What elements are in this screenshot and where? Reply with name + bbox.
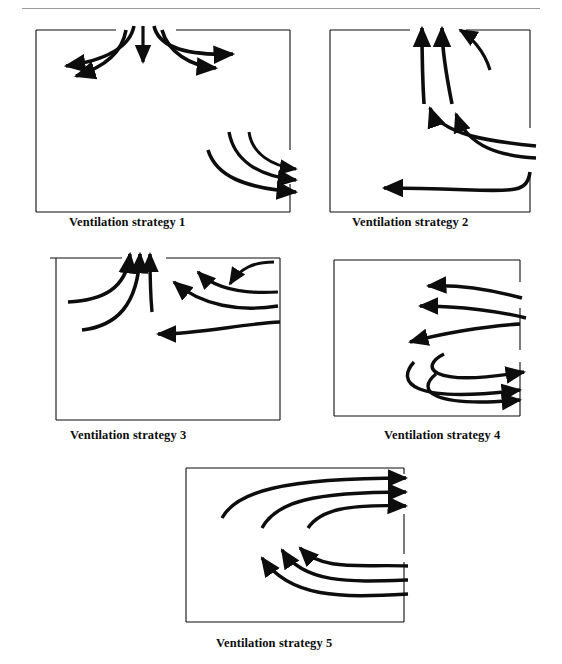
arrow-rise-mid — [442, 28, 452, 104]
arrow-right-inner — [162, 30, 216, 68]
arrow-left-mid — [420, 306, 526, 318]
header-rule — [22, 8, 540, 9]
panel-strategy-3 — [50, 250, 292, 428]
caption-strategy-2: Ventilation strategy 2 — [352, 215, 468, 230]
panel-strategy-1 — [30, 24, 302, 220]
arrow-in-mid — [174, 282, 278, 308]
caption-strategy-1: Ventilation strategy 1 — [69, 215, 185, 230]
airflow-diagram-2 — [324, 24, 542, 220]
arrow-left-top — [428, 286, 522, 298]
tail-dummy-2 — [492, 69, 501, 71]
arrow-left-inner — [76, 30, 126, 76]
airflow-diagram-5 — [180, 462, 420, 634]
caption-strategy-3: Ventilation strategy 3 — [70, 428, 186, 443]
running-head — [0, 0, 562, 4]
room-outline-3 — [50, 258, 280, 420]
arrow-out-low — [308, 506, 406, 528]
arrow-in-low-left — [158, 322, 280, 334]
panel-strategy-5 — [180, 462, 420, 634]
airflow-diagram-3 — [50, 250, 292, 428]
arrow-rise-left — [422, 28, 424, 104]
panel-strategy-4 — [324, 250, 544, 432]
airflow-diagram-1 — [30, 24, 302, 220]
room-outline-2 — [330, 30, 530, 212]
arrow-in-up-right — [300, 548, 408, 566]
panel-strategy-2 — [324, 24, 542, 220]
figure-page: Ventilation strategy 1 — [0, 0, 562, 664]
arrow-in-top — [230, 262, 274, 284]
caption-strategy-5: Ventilation strategy 5 — [216, 636, 332, 651]
arrow-rise-right — [460, 30, 490, 70]
arrow-supply-upper — [430, 108, 536, 146]
arrow-floor-left — [384, 172, 530, 191]
arrow-right-top — [432, 354, 524, 378]
arrow-exhaust-high — [249, 132, 296, 169]
arrow-exhaust-low — [208, 150, 296, 192]
caption-strategy-4: Ventilation strategy 4 — [384, 428, 500, 443]
arrow-up-right — [150, 254, 152, 312]
airflow-diagram-4 — [324, 250, 544, 432]
arrow-up-left — [68, 254, 130, 302]
arrow-left-low — [410, 324, 520, 342]
arrow-supply-lower — [456, 114, 536, 158]
